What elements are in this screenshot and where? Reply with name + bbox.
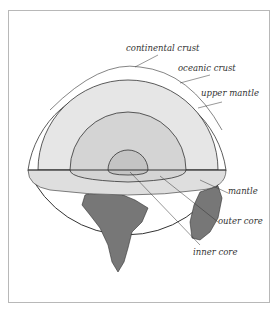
label-oceanic-crust: oceanic crust — [178, 63, 236, 73]
earth-layers-diagram: continental crust oceanic crust upper ma… — [0, 0, 279, 310]
label-continental-crust: continental crust — [126, 43, 200, 53]
label-inner-core: inner core — [193, 247, 237, 257]
label-mantle: mantle — [228, 186, 258, 196]
label-outer-core: outer core — [218, 216, 263, 226]
label-upper-mantle: upper mantle — [201, 88, 259, 98]
